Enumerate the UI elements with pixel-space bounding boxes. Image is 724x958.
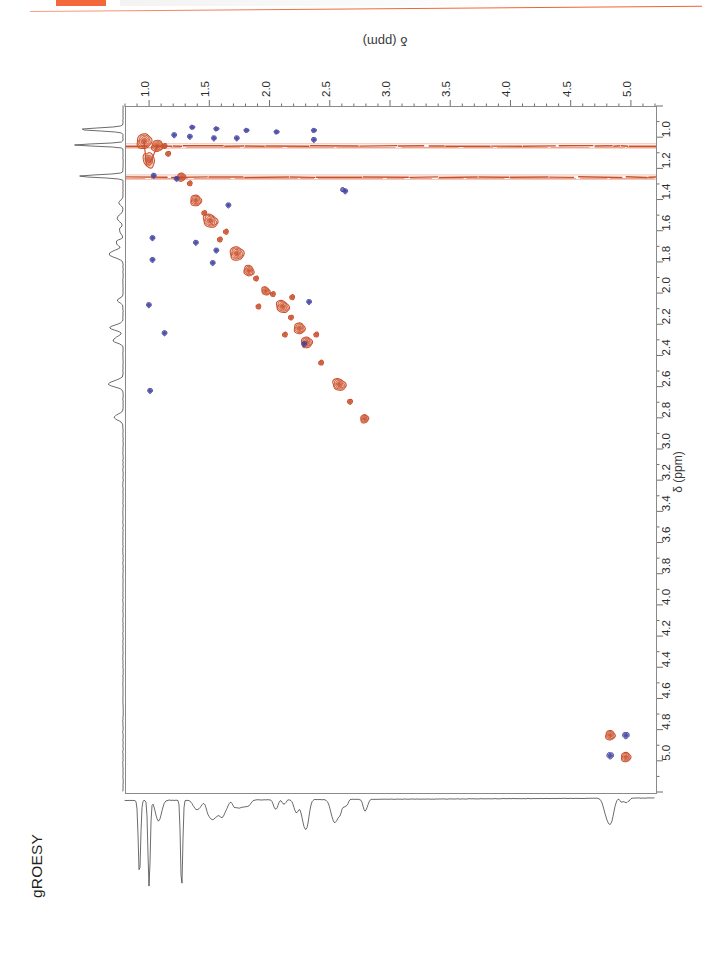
right-tick-label: 2.6 — [660, 371, 672, 387]
bottom-1d-projection — [125, 792, 657, 910]
left-1d-projection — [22, 106, 126, 792]
right-tick-label: 3.4 — [660, 495, 672, 512]
right-axis: 1.01.21.41.61.82.02.22.42.62.83.03.23.43… — [655, 106, 675, 794]
header-ghost-band — [120, 0, 550, 6]
right-tick-label: 2.2 — [660, 308, 672, 324]
right-tick-label: 1.8 — [660, 246, 672, 262]
top-axis-label: δ (ppm) — [325, 34, 445, 49]
right-tick-label: 2.0 — [660, 277, 672, 293]
left-projection-path — [75, 106, 124, 791]
contour-plot-frame — [125, 106, 657, 794]
right-tick-label: 2.4 — [660, 339, 672, 356]
top-axis: 1.01.52.02.53.03.54.04.55.0 — [125, 88, 657, 108]
contour-canvas — [126, 107, 656, 793]
right-tick-label: 2.8 — [660, 402, 672, 418]
right-tick-label: 5.0 — [660, 745, 672, 761]
header-accent-block — [56, 0, 106, 6]
right-tick-label: 4.4 — [660, 651, 672, 668]
right-tick-label: 1.0 — [660, 121, 672, 137]
top-tick-label: 3.5 — [440, 81, 452, 97]
top-tick-label: 5.0 — [621, 81, 633, 97]
contour-plot-area — [126, 107, 656, 793]
right-tick-label: 3.0 — [660, 433, 672, 449]
right-tick-label: 4.0 — [660, 589, 672, 605]
header-divider-rule — [30, 6, 702, 13]
bottom-projection-path — [125, 798, 654, 886]
top-tick-label: 1.0 — [139, 81, 151, 97]
right-tick-label: 3.8 — [660, 558, 672, 574]
right-tick-label: 1.6 — [660, 215, 672, 231]
top-tick-label: 4.5 — [561, 81, 573, 97]
nmr-spectrum-page: gROESY δ (ppm) δ (ppm) 1.01.52.02.53.03.… — [0, 0, 724, 958]
right-tick-label: 3.6 — [660, 527, 672, 543]
top-tick-label: 3.0 — [380, 81, 392, 97]
right-tick-label: 1.4 — [660, 183, 672, 200]
right-tick-label: 4.2 — [660, 620, 672, 636]
top-tick-label: 4.0 — [500, 81, 512, 97]
top-tick-label: 1.5 — [199, 81, 211, 97]
right-tick-label: 3.2 — [660, 464, 672, 480]
top-tick-label: 2.5 — [320, 81, 332, 97]
right-tick-label: 4.8 — [660, 714, 672, 730]
right-tick-label: 4.6 — [660, 682, 672, 698]
right-tick-label: 1.2 — [660, 152, 672, 168]
top-tick-label: 2.0 — [260, 81, 272, 97]
experiment-name-label: gROESY — [28, 811, 50, 921]
